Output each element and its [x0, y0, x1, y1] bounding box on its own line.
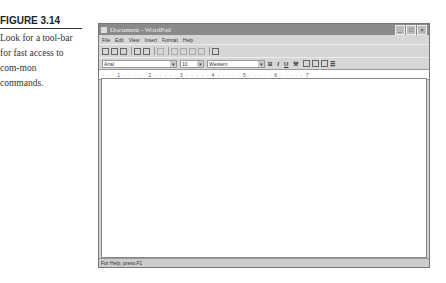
cut-icon[interactable]: [171, 48, 178, 55]
align-center-icon[interactable]: [312, 60, 319, 67]
color-button[interactable]: ⚒: [293, 60, 298, 67]
menu-view[interactable]: View: [129, 37, 140, 43]
status-bar: For Help, press F1: [99, 258, 429, 267]
title-bar[interactable]: Document - WordPad _ □ ×: [99, 24, 429, 35]
size-select[interactable]: 10▾: [180, 60, 204, 68]
figure-title: FIGURE 3.14: [0, 15, 82, 29]
script-select[interactable]: Western▾: [207, 60, 265, 68]
bullets-icon[interactable]: ☰: [330, 60, 335, 67]
format-bar: Arial▾ 10▾ Western▾ B I U ⚒ ☰: [99, 57, 429, 69]
menu-insert[interactable]: Insert: [144, 37, 157, 43]
open-icon[interactable]: [111, 48, 118, 55]
chevron-down-icon[interactable]: ▾: [170, 61, 176, 67]
minimize-button[interactable]: _: [395, 25, 405, 35]
date-time-icon[interactable]: [212, 48, 219, 55]
document-area[interactable]: [101, 78, 427, 258]
maximize-button[interactable]: □: [406, 25, 416, 35]
print-icon[interactable]: [134, 48, 141, 55]
wordpad-window: Document - WordPad _ □ × File Edit View …: [98, 23, 430, 268]
chevron-down-icon[interactable]: ▾: [258, 61, 264, 67]
print-preview-icon[interactable]: [143, 48, 150, 55]
bold-button[interactable]: B: [268, 61, 272, 67]
find-icon[interactable]: [157, 48, 164, 55]
undo-icon[interactable]: [198, 48, 205, 55]
menu-bar: File Edit View Insert Format Help: [99, 35, 429, 44]
copy-icon[interactable]: [180, 48, 187, 55]
paste-icon[interactable]: [189, 48, 196, 55]
save-icon[interactable]: [120, 48, 127, 55]
figure-caption: FIGURE 3.14 Look for a tool-bar for fast…: [0, 15, 82, 91]
menu-file[interactable]: File: [102, 37, 110, 43]
standard-toolbar: [99, 44, 429, 57]
menu-edit[interactable]: Edit: [115, 37, 124, 43]
menu-help[interactable]: Help: [183, 37, 193, 43]
app-icon: [101, 27, 107, 33]
align-left-icon[interactable]: [303, 60, 310, 67]
underline-button[interactable]: U: [284, 61, 288, 67]
font-select[interactable]: Arial▾: [102, 60, 177, 68]
italic-button[interactable]: I: [277, 61, 279, 67]
menu-format[interactable]: Format: [162, 37, 178, 43]
chevron-down-icon[interactable]: ▾: [197, 61, 203, 67]
close-button[interactable]: ×: [417, 25, 427, 35]
new-icon[interactable]: [102, 48, 109, 55]
figure-text: Look for a tool-bar for fast access to c…: [0, 31, 82, 91]
align-right-icon[interactable]: [321, 60, 328, 67]
window-title: Document - WordPad: [110, 26, 394, 34]
